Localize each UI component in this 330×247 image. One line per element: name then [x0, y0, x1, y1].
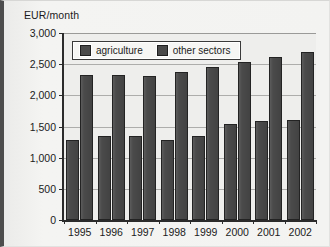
legend-label-other-sectors: other sectors	[173, 45, 231, 56]
bar-other-sectors-1998	[175, 72, 188, 220]
bar-agriculture-1995	[66, 140, 79, 220]
bar-agriculture-1998	[161, 140, 174, 220]
x-axis-tick	[190, 220, 191, 224]
bar-other-sectors-2000	[238, 62, 251, 220]
bar-group-1996	[98, 33, 125, 220]
x-axis-tick	[96, 220, 97, 224]
y-axis-unit-label: EUR/month	[24, 9, 79, 21]
bar-agriculture-2001	[255, 121, 268, 220]
bar-agriculture-1999	[192, 136, 205, 220]
x-axis-tick	[222, 220, 223, 224]
x-axis-tick-label-2000: 2000	[226, 226, 249, 238]
bar-group-1999	[192, 33, 219, 220]
y-axis-tick-label: 3,000	[30, 27, 56, 39]
x-axis-tick-label-1995: 1995	[68, 226, 91, 238]
figure-background: EUR/month 05001,0001,5002,0002,5003,000 …	[4, 1, 329, 246]
bar-group-2002	[287, 33, 314, 220]
bar-other-sectors-2002	[301, 52, 314, 220]
bar-other-sectors-2001	[269, 57, 282, 220]
x-axis-tick-label-1996: 1996	[100, 226, 123, 238]
y-axis-tick-label: 2,500	[30, 58, 56, 70]
chart-figure: EUR/month 05001,0001,5002,0002,5003,000 …	[0, 0, 330, 247]
y-axis-tick-label: 500	[38, 183, 56, 195]
chart-legend: agriculture other sectors	[72, 41, 241, 60]
y-axis-tick-label: 0	[50, 214, 56, 226]
bar-agriculture-2000	[224, 124, 237, 220]
plot-area: 05001,0001,5002,0002,5003,000 1995199619…	[62, 33, 316, 222]
bar-agriculture-2002	[287, 120, 300, 220]
legend-swatch-other-sectors	[157, 45, 168, 56]
x-axis-tick-label-2002: 2002	[289, 226, 312, 238]
y-axis-tick-label: 2,000	[30, 89, 56, 101]
bar-group-2000	[224, 33, 251, 220]
bar-other-sectors-1999	[206, 67, 219, 220]
x-axis-tick-label-2001: 2001	[257, 226, 280, 238]
x-axis-tick-label-1997: 1997	[131, 226, 154, 238]
legend-label-agriculture: agriculture	[96, 45, 143, 56]
x-axis-tick	[316, 220, 317, 224]
x-axis-tick	[253, 220, 254, 224]
bar-group-1998	[161, 33, 188, 220]
legend-swatch-agriculture	[80, 45, 91, 56]
bar-other-sectors-1997	[143, 76, 156, 220]
bar-agriculture-1997	[129, 136, 142, 220]
x-axis-tick-label-1999: 1999	[194, 226, 217, 238]
legend-entry-other-sectors: other sectors	[157, 45, 231, 56]
bars-layer: 19951996199719981999200020012002	[64, 33, 316, 220]
bar-group-1997	[129, 33, 156, 220]
legend-entry-agriculture: agriculture	[80, 45, 143, 56]
x-axis-tick	[159, 220, 160, 224]
y-axis-tick-label: 1,000	[30, 152, 56, 164]
bar-other-sectors-1996	[112, 75, 125, 220]
bar-group-1995	[66, 33, 93, 220]
x-axis-tick	[285, 220, 286, 224]
x-axis-tick	[64, 220, 65, 224]
y-axis-tick-label: 1,500	[30, 121, 56, 133]
x-axis-tick-label-1998: 1998	[163, 226, 186, 238]
bar-other-sectors-1995	[80, 75, 93, 220]
bar-agriculture-1996	[98, 136, 111, 220]
x-axis-tick	[127, 220, 128, 224]
bar-group-2001	[255, 33, 282, 220]
